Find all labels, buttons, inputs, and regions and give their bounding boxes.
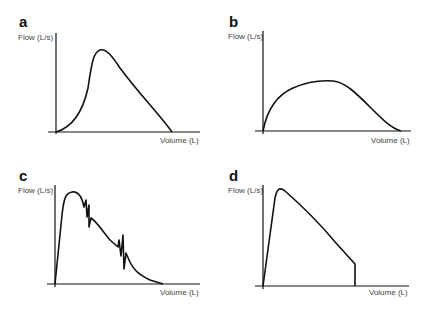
panel-d: d Flow (L/s) Volume (L): [211, 155, 422, 310]
panel-a: a Flow (L/s) Volume (L): [0, 0, 211, 155]
flow-volume-plot: [0, 155, 211, 310]
panel-c: c Flow (L/s) Volume (L): [0, 155, 211, 310]
flow-volume-plot: [211, 155, 422, 310]
flow-volume-plot: [0, 0, 211, 155]
flow-volume-plot: [211, 0, 422, 155]
panel-b: b Flow (L/s) Volume (L): [211, 0, 422, 155]
